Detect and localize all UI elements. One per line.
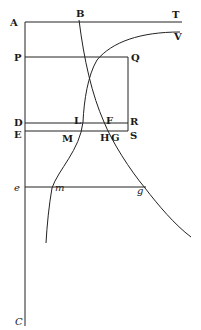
geometric-diagram: A B T V P Q D L F R E M H G S e m g C [0,0,201,330]
label-S: S [130,130,137,141]
label-L: L [74,115,81,126]
label-g: g [137,185,143,196]
label-M: M [62,133,73,144]
label-m: m [55,182,64,193]
label-P: P [14,52,22,63]
label-C: C [15,316,23,327]
label-e: e [14,182,20,193]
label-F: F [106,115,113,126]
label-T: T [172,9,180,20]
label-R: R [130,116,139,127]
label-H: H [100,132,109,143]
label-G: G [111,132,120,143]
label-Q: Q [131,52,140,63]
label-A: A [9,17,18,28]
label-V: V [173,31,182,42]
label-B: B [76,8,84,19]
label-E: E [14,129,22,140]
label-D: D [14,117,23,128]
